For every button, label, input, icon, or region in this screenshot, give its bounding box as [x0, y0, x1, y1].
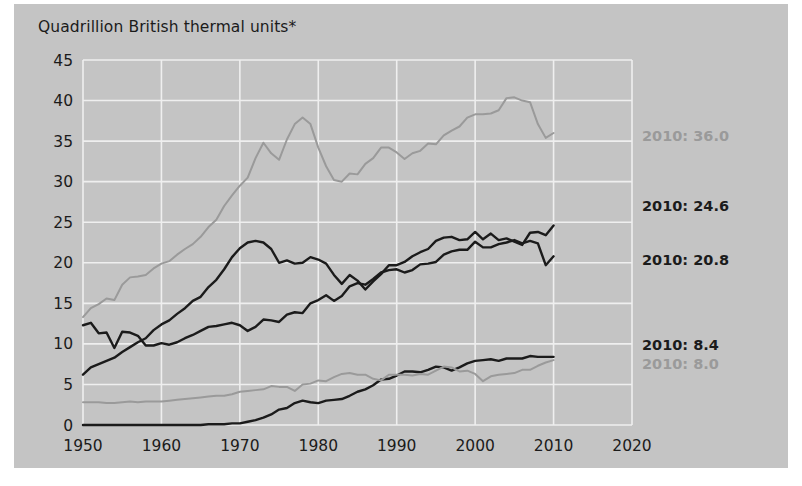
- renewables-endpoint-label: 2010: 8.0: [642, 356, 719, 372]
- x-axis-tick-label: 2010: [534, 437, 573, 455]
- y-axis-tick-label: 40: [53, 92, 73, 110]
- plot-area: 051015202530354045 195019601970198019902…: [14, 4, 788, 468]
- nuclear-endpoint-label: 2010: 8.4: [642, 337, 719, 353]
- y-axis-tick-label: 0: [63, 417, 73, 435]
- x-axis-tick-label: 1950: [63, 437, 102, 455]
- y-axis-tick-label: 30: [53, 173, 73, 191]
- x-axis-tick-labels: 19501960197019801990200020102020: [63, 437, 651, 455]
- natural-gas-endpoint-label: 2010: 24.6: [642, 198, 729, 214]
- endpoint-annotations: 2010: 36.02010: 24.62010: 20.82010: 8.42…: [642, 128, 729, 372]
- y-axis-tick-label: 20: [53, 254, 73, 272]
- x-axis-tick-label: 1990: [377, 437, 416, 455]
- x-axis-tick-label: 1970: [220, 437, 259, 455]
- y-axis-tick-label: 5: [63, 376, 73, 394]
- y-axis-tick-label: 25: [53, 214, 73, 232]
- x-axis-tick-label: 2020: [612, 437, 651, 455]
- chart-svg: 051015202530354045 195019601970198019902…: [14, 4, 788, 468]
- grid-lines: [83, 60, 632, 425]
- chart-figure: Quadrillion British thermal units* 05101…: [14, 4, 788, 468]
- y-axis-tick-label: 15: [53, 295, 73, 313]
- x-axis-tick-label: 1980: [299, 437, 338, 455]
- y-axis-tick-label: 35: [53, 133, 73, 151]
- y-axis-tick-label: 10: [53, 335, 73, 353]
- y-axis-tick-labels: 051015202530354045: [53, 52, 73, 435]
- coal-endpoint-label: 2010: 20.8: [642, 252, 729, 268]
- y-axis-tick-label: 45: [53, 52, 73, 70]
- x-axis-tick-label: 1960: [142, 437, 181, 455]
- petroleum-endpoint-label: 2010: 36.0: [642, 128, 729, 144]
- x-axis-tick-label: 2000: [455, 437, 494, 455]
